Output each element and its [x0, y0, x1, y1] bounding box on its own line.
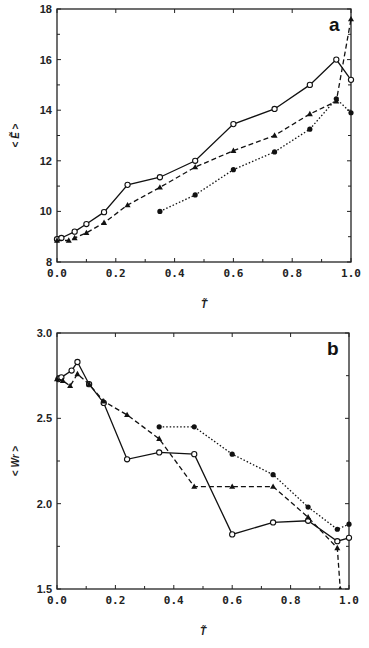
data-point — [156, 436, 162, 441]
data-point — [307, 82, 312, 87]
data-point — [346, 522, 351, 527]
x-tick-label: 0.2 — [105, 594, 125, 607]
series-line — [57, 19, 351, 240]
y-tick-label: 1.5 — [37, 583, 52, 595]
data-point — [346, 535, 351, 540]
data-point — [334, 545, 340, 550]
chart-panel-a: 0.00.20.40.60.81.081012141618aT̃< Ẽ > — [0, 0, 369, 324]
x-tick-label: 1.0 — [339, 594, 359, 607]
y-axis-label: < Ẽ > — [9, 123, 21, 147]
x-tick-label: 0.0 — [47, 594, 67, 607]
data-point — [348, 77, 353, 82]
x-tick-label: 0.2 — [106, 267, 126, 280]
x-tick-label: 0.6 — [223, 267, 243, 280]
y-tick-label: 14 — [40, 104, 53, 116]
y-tick-label: 2.5 — [37, 412, 52, 424]
y-tick-label: 3.0 — [37, 327, 52, 339]
data-point — [334, 96, 339, 101]
x-tick-label: 0.6 — [222, 594, 242, 607]
data-point — [272, 132, 278, 137]
data-point — [157, 175, 162, 180]
panel-label: b — [327, 338, 339, 359]
data-point — [125, 182, 130, 187]
data-point — [230, 532, 235, 537]
data-point — [272, 149, 277, 154]
data-point — [307, 111, 313, 116]
chart-panel-b: 0.00.20.40.60.81.01.52.02.53.0bT̃< Wr > — [0, 324, 369, 648]
series-line — [159, 427, 349, 529]
x-tick-label: 0.8 — [282, 267, 302, 280]
data-point — [270, 472, 275, 477]
data-point — [157, 209, 162, 214]
data-point — [75, 359, 80, 364]
data-point — [270, 483, 276, 488]
x-tick-label: 0.4 — [164, 594, 184, 607]
y-tick-label: 16 — [40, 54, 52, 66]
data-point — [192, 424, 197, 429]
y-tick-label: 18 — [40, 3, 52, 15]
data-point — [157, 184, 163, 189]
data-point — [231, 167, 236, 172]
y-axis-label: < Wr > — [10, 446, 21, 477]
data-point — [348, 16, 354, 21]
data-point — [69, 368, 74, 373]
x-tick-label: 1.0 — [341, 267, 361, 280]
data-point — [348, 110, 353, 115]
data-point — [334, 57, 339, 62]
data-point — [157, 424, 162, 429]
data-point — [230, 452, 235, 457]
data-point — [101, 210, 106, 215]
x-tick-label: 0.0 — [47, 267, 67, 280]
y-tick-label: 2.0 — [37, 498, 52, 510]
data-point — [59, 235, 64, 240]
x-tick-label: 0.8 — [281, 594, 301, 607]
data-point — [193, 158, 198, 163]
y-tick-label: 12 — [40, 155, 52, 167]
series-line — [57, 374, 340, 589]
data-point — [72, 229, 77, 234]
data-point — [307, 127, 312, 132]
x-axis-label: T̃ — [201, 298, 208, 310]
data-point — [335, 539, 340, 544]
data-point — [192, 452, 197, 457]
y-tick-label: 8 — [46, 256, 52, 268]
plot-frame — [57, 333, 349, 589]
x-tick-label: 0.4 — [165, 267, 185, 280]
data-point — [157, 450, 162, 455]
x-axis-label: T̃ — [200, 625, 207, 637]
data-point — [124, 457, 129, 462]
data-point — [272, 106, 277, 111]
data-point — [101, 220, 107, 225]
data-point — [270, 520, 275, 525]
data-point — [306, 504, 311, 509]
data-point — [84, 221, 89, 226]
panel-label: a — [329, 14, 340, 35]
y-tick-label: 10 — [40, 205, 52, 217]
data-point — [74, 371, 80, 376]
data-point — [193, 192, 198, 197]
data-point — [335, 527, 340, 532]
data-point — [231, 122, 236, 127]
